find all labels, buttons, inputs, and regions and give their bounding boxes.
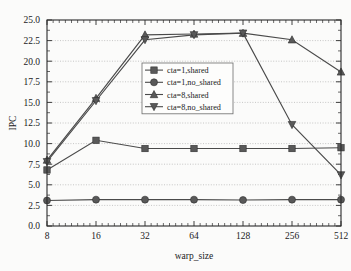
x-tick-label: 32 xyxy=(140,231,150,241)
data-point-marker xyxy=(93,196,100,203)
legend-label: cta=1,shared xyxy=(167,66,209,75)
x-tick-label: 256 xyxy=(285,231,300,241)
data-point-marker xyxy=(93,137,99,143)
y-tick-label: 0.0 xyxy=(28,221,40,231)
y-tick-label: 15.0 xyxy=(23,98,40,108)
x-tick-label: 16 xyxy=(91,231,101,241)
data-point-marker xyxy=(142,196,149,203)
y-tick-label: 10.0 xyxy=(23,139,40,149)
legend-label: cta=8,no_shared xyxy=(167,103,221,112)
data-point-marker xyxy=(191,196,198,203)
y-tick-label: 25.0 xyxy=(23,15,40,25)
x-tick-label: 128 xyxy=(236,231,251,241)
y-tick-label: 2.5 xyxy=(28,201,40,211)
legend-label: cta=8,shared xyxy=(167,91,209,100)
legend: cta=1,sharedcta=1,no_sharedcta=8,sharedc… xyxy=(142,63,233,114)
ipc-vs-warpsize-line-chart: 0.02.55.07.510.012.515.017.520.022.525.0… xyxy=(0,0,351,271)
data-point-marker xyxy=(142,145,148,151)
y-axis-title: IPC xyxy=(8,116,18,131)
y-tick-label: 22.5 xyxy=(23,36,40,46)
y-tick-label: 7.5 xyxy=(28,160,40,170)
y-tick-label: 20.0 xyxy=(23,57,40,67)
y-tick-label: 5.0 xyxy=(28,180,40,190)
y-tick-label: 12.5 xyxy=(23,118,40,128)
chart-container: 0.02.55.07.510.012.515.017.520.022.525.0… xyxy=(0,0,351,271)
legend-marker-icon xyxy=(151,79,158,86)
x-tick-label: 64 xyxy=(189,231,199,241)
data-point-marker xyxy=(240,145,246,151)
x-tick-label: 512 xyxy=(334,231,349,241)
x-tick-label: 8 xyxy=(45,231,50,241)
data-point-marker xyxy=(191,145,197,151)
y-tick-label: 17.5 xyxy=(23,77,40,87)
data-point-marker xyxy=(289,145,295,151)
legend-marker-icon xyxy=(151,67,157,73)
data-point-marker xyxy=(240,197,247,204)
data-point-marker xyxy=(289,196,296,203)
legend-label: cta=1,no_shared xyxy=(167,78,221,87)
x-axis-title: warp_size xyxy=(175,251,214,261)
